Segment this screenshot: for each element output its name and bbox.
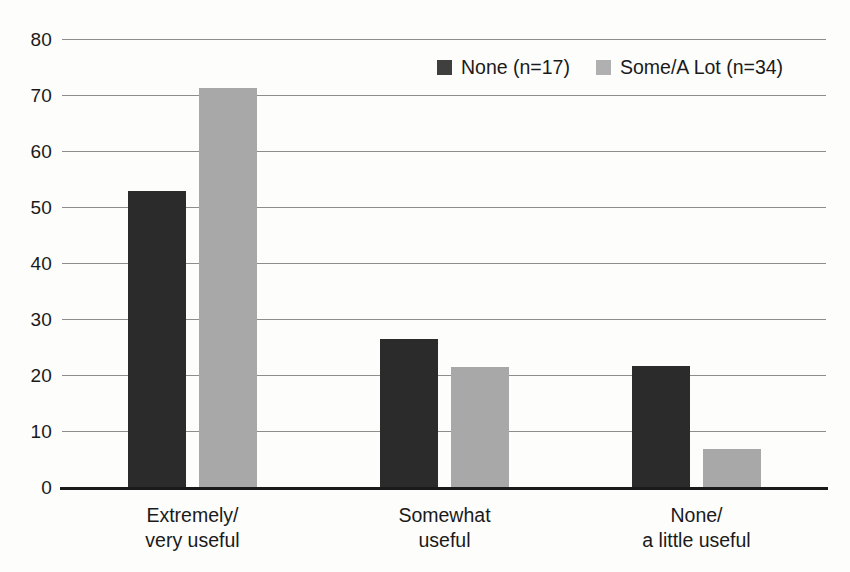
x-axis-baseline (60, 487, 828, 490)
bars-group (62, 30, 826, 495)
category-label-line: Extremely/ (63, 503, 323, 528)
y-tick-label-30: 30 (0, 310, 52, 329)
gray-swatch-icon (596, 60, 611, 75)
y-tick-label-0: 0 (0, 478, 52, 497)
legend-label-none: None (n=17) (461, 57, 570, 77)
y-tick-label-20: 20 (0, 366, 52, 385)
category-label-line: very useful (63, 528, 323, 553)
category-label-2: None/a little useful (567, 503, 827, 553)
category-label-0: Extremely/very useful (63, 503, 323, 553)
y-tick-label-50: 50 (0, 198, 52, 217)
bar-group-2-series-0 (632, 366, 690, 487)
bar-chart: 80706050403020100 Extremely/very usefulS… (0, 0, 850, 572)
bar-group-0-series-0 (128, 191, 186, 487)
category-label-1: Somewhatuseful (315, 503, 575, 553)
chart-legend: None (n=17) Some/A Lot (n=34) (437, 57, 783, 77)
plot-area (62, 30, 826, 495)
category-label-line: a little useful (567, 528, 827, 553)
y-tick-label-70: 70 (0, 86, 52, 105)
legend-entry-none: None (n=17) (437, 57, 570, 77)
category-label-line: None/ (567, 503, 827, 528)
bar-group-1-series-1 (451, 367, 509, 487)
y-tick-label-40: 40 (0, 254, 52, 273)
y-tick-label-80: 80 (0, 30, 52, 49)
legend-entry-some-a-lot: Some/A Lot (n=34) (596, 57, 783, 77)
y-tick-label-10: 10 (0, 422, 52, 441)
bar-group-1-series-0 (380, 339, 438, 487)
x-axis-category-labels: Extremely/very usefulSomewhatusefulNone/… (62, 497, 826, 567)
bar-group-0-series-1 (199, 88, 257, 487)
category-label-line: useful (315, 528, 575, 553)
bar-group-2-series-1 (703, 449, 761, 487)
category-label-line: Somewhat (315, 503, 575, 528)
y-tick-label-60: 60 (0, 142, 52, 161)
dark-swatch-icon (437, 60, 452, 75)
legend-label-some-a-lot: Some/A Lot (n=34) (620, 57, 783, 77)
